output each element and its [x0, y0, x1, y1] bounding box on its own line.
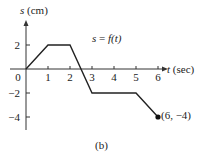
x-var: t: [167, 63, 170, 75]
y-tick-label: −4: [8, 111, 20, 123]
y-tick-label: −2: [8, 87, 20, 99]
origin-label: 0: [15, 71, 21, 83]
figure-caption: (b): [95, 140, 108, 151]
chart-figure: 12345602−2−4 s (cm) t (sec) s = f(t) (6,…: [0, 0, 221, 158]
y-axis-label: s (cm): [20, 5, 48, 16]
y-axis-arrow-icon: [24, 20, 29, 26]
axes: 12345602−2−4: [8, 20, 168, 130]
y-tick-label: 2: [15, 39, 21, 51]
x-tick-label: 3: [89, 71, 95, 83]
x-tick-label: 2: [67, 71, 73, 83]
endpoint-dot-icon: [155, 114, 160, 119]
x-tick-label: 5: [133, 71, 139, 83]
function-label: s = f(t): [92, 33, 121, 44]
x-axis-label: t (sec): [167, 64, 194, 75]
function-rhs: f(t): [108, 32, 121, 44]
y-unit: (cm): [27, 4, 48, 16]
x-tick-label: 6: [155, 71, 161, 83]
function-eq: =: [96, 32, 108, 44]
endpoint-annotation: (6, −4): [161, 110, 191, 121]
x-tick-label: 1: [45, 71, 51, 83]
y-var: s: [20, 4, 24, 16]
x-unit: (sec): [173, 63, 194, 75]
plot-area: 12345602−2−4: [0, 0, 221, 158]
x-tick-label: 4: [111, 71, 117, 83]
